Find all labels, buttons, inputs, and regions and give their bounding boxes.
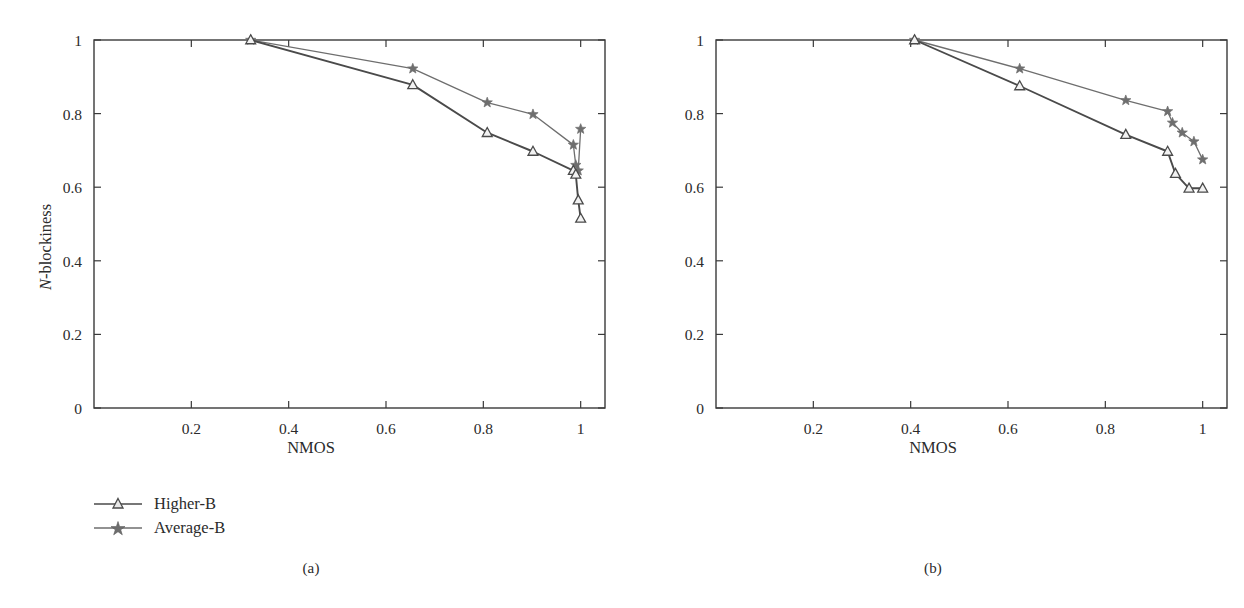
svg-text:0.2: 0.2	[63, 326, 82, 343]
legend-item-average-b-a: Average-B	[92, 516, 392, 540]
panel-a: 0.20.40.60.8100.20.40.60.81 N-blockiness…	[0, 0, 622, 608]
figure-container: 0.20.40.60.8100.20.40.60.81 N-blockiness…	[0, 0, 1244, 608]
svg-text:0.2: 0.2	[804, 420, 823, 437]
legend-label-higher-b: Higher-B	[154, 494, 216, 514]
svg-text:0.6: 0.6	[63, 179, 83, 196]
svg-text:0.4: 0.4	[63, 253, 83, 270]
svg-text:0.8: 0.8	[1096, 420, 1116, 437]
legend-key-triangle-icon	[92, 495, 144, 513]
svg-text:0.6: 0.6	[376, 420, 396, 437]
svg-text:1: 1	[1199, 420, 1207, 437]
svg-text:0.6: 0.6	[998, 420, 1018, 437]
svg-text:0.2: 0.2	[685, 326, 704, 343]
plot-area-a: 0.20.40.60.8100.20.40.60.81	[0, 0, 622, 480]
panel-caption-a: (a)	[0, 560, 622, 577]
svg-text:0.2: 0.2	[182, 420, 201, 437]
svg-text:0: 0	[74, 400, 82, 417]
svg-text:0.6: 0.6	[685, 179, 705, 196]
svg-text:0.8: 0.8	[474, 420, 494, 437]
legend-key-star-icon	[92, 519, 144, 537]
x-axis-title-b: NMOS	[622, 438, 1244, 458]
legend-a: Higher-B Average-B	[92, 492, 392, 540]
svg-text:0.4: 0.4	[685, 253, 705, 270]
svg-text:0.8: 0.8	[63, 106, 83, 123]
svg-text:0: 0	[696, 400, 704, 417]
legend-item-higher-b-a: Higher-B	[92, 492, 392, 516]
svg-text:1: 1	[74, 32, 82, 49]
panel-caption-b: (b)	[622, 560, 1244, 577]
svg-text:0.4: 0.4	[901, 420, 921, 437]
x-axis-title-a: NMOS	[0, 438, 622, 458]
panel-b: 0.20.40.60.8100.20.40.60.81 N-blockiness…	[622, 0, 1244, 608]
svg-text:0.4: 0.4	[279, 420, 299, 437]
svg-text:0.8: 0.8	[685, 106, 705, 123]
legend-label-average-b: Average-B	[154, 518, 225, 538]
svg-text:1: 1	[696, 32, 704, 49]
svg-text:1: 1	[577, 420, 585, 437]
plot-area-b: 0.20.40.60.8100.20.40.60.81	[622, 0, 1244, 480]
y-axis-title-a: N-blockiness	[36, 204, 56, 290]
